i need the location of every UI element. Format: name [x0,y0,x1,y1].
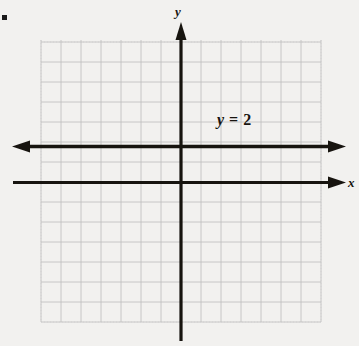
coordinate-plane-svg [0,0,359,346]
equation-variable: y [217,111,225,128]
equation-operator: = [229,111,239,128]
graph-figure: y x y = 2 [0,0,359,346]
equation-label: y = 2 [217,112,252,128]
x-axis-label: x [348,176,355,189]
corner-bullet-marker [2,15,7,20]
equation-value: 2 [243,111,252,128]
y-axis-label: y [175,5,181,18]
